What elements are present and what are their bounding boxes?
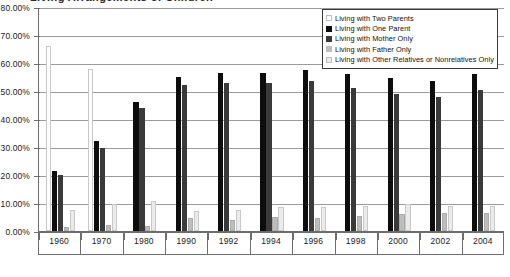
- bar: [309, 81, 314, 231]
- y-axis-tick-label: 40.00%: [1, 115, 30, 125]
- bar: [436, 97, 441, 231]
- legend-item[interactable]: Living with Father Only: [326, 44, 493, 54]
- bar: [224, 83, 229, 231]
- bar: [133, 102, 138, 231]
- bar: [188, 218, 193, 231]
- bar: [70, 210, 75, 231]
- x-axis-tick-label: 1970: [92, 236, 112, 246]
- bar: [218, 73, 223, 231]
- bar: [100, 148, 105, 231]
- x-axis-tick-label: 2002: [431, 236, 451, 246]
- legend-swatch-icon: [326, 46, 332, 52]
- bar-group: [166, 8, 208, 231]
- bar: [315, 218, 320, 231]
- bar: [52, 171, 57, 231]
- bar: [448, 206, 453, 231]
- x-axis-tick-label: 1990: [176, 236, 196, 246]
- x-axis-separator: [165, 232, 166, 254]
- legend-item[interactable]: Living with One Parent: [326, 23, 493, 33]
- bar: [151, 201, 156, 231]
- bar-chart: 0.00%10.00%20.00%30.00%40.00%50.00%60.00…: [0, 0, 510, 277]
- bar-group: [81, 8, 123, 231]
- bar: [260, 73, 265, 231]
- bar: [278, 207, 283, 231]
- y-axis-tick-label: 20.00%: [1, 171, 30, 181]
- x-axis-left-cap: [38, 232, 39, 254]
- bar: [357, 216, 362, 231]
- bar: [88, 69, 93, 231]
- bar: [442, 213, 447, 231]
- x-axis-separator: [80, 232, 81, 254]
- bar: [394, 94, 399, 231]
- bar: [484, 213, 489, 231]
- bar: [472, 74, 477, 231]
- y-axis-tick-label: 60.00%: [1, 59, 30, 69]
- y-axis-tick-label: 50.00%: [1, 87, 30, 97]
- legend-swatch-icon: [326, 36, 332, 42]
- x-axis-separator: [207, 232, 208, 254]
- bar: [176, 77, 181, 231]
- bar: [321, 207, 326, 231]
- legend-item[interactable]: Living with Other Relatives or Nonrelati…: [326, 55, 493, 65]
- x-axis-separator: [419, 232, 420, 254]
- bar: [112, 204, 117, 231]
- y-axis-tick-label: 10.00%: [1, 199, 30, 209]
- x-axis-labels: 1960197019801990199219941996199820002002…: [38, 232, 504, 254]
- x-axis-tick-label: 1994: [261, 236, 281, 246]
- x-axis-tick-label: 1960: [49, 236, 69, 246]
- x-axis-separator: [292, 232, 293, 254]
- y-axis-tick-label: 30.00%: [1, 143, 30, 153]
- bar-group: [124, 8, 166, 231]
- x-axis-separator: [250, 232, 251, 254]
- y-axis-tick-label: 80.00%: [1, 3, 30, 13]
- bar: [58, 175, 63, 231]
- legend-swatch-icon: [326, 15, 332, 21]
- legend-item-label: Living with Father Only: [335, 45, 411, 54]
- x-axis-tick-label: 2000: [388, 236, 408, 246]
- bar: [64, 227, 69, 231]
- x-axis-rule: [38, 254, 504, 255]
- bar: [363, 206, 368, 231]
- bar: [478, 90, 483, 231]
- x-axis-separator: [462, 232, 463, 254]
- x-axis-tick-label: 1992: [219, 236, 239, 246]
- bar: [230, 220, 235, 231]
- x-axis-tick-label: 1996: [304, 236, 324, 246]
- bar: [194, 211, 199, 231]
- bar: [272, 217, 277, 231]
- bar: [405, 204, 410, 231]
- bar: [345, 74, 350, 231]
- bar-group: [208, 8, 250, 231]
- legend-swatch-icon: [326, 57, 332, 63]
- bar: [94, 141, 99, 231]
- bar: [106, 225, 111, 231]
- bar: [236, 210, 241, 231]
- bar: [46, 46, 51, 231]
- bar: [430, 81, 435, 231]
- chart-legend: Living with Two ParentsLiving with One P…: [322, 9, 498, 69]
- bar: [182, 85, 187, 231]
- bar: [145, 226, 150, 231]
- legend-item[interactable]: Living with Mother Only: [326, 34, 493, 44]
- bar: [303, 70, 308, 231]
- y-axis-tick-label: 0.00%: [5, 227, 30, 237]
- legend-swatch-icon: [326, 26, 332, 32]
- bar: [490, 206, 495, 231]
- legend-item-label: Living with Other Relatives or Nonrelati…: [335, 55, 494, 64]
- bar: [266, 83, 271, 231]
- bar: [399, 214, 404, 231]
- legend-item-label: Living with Mother Only: [335, 34, 413, 43]
- legend-item-label: Living with Two Parents: [335, 14, 414, 23]
- x-axis-separator: [335, 232, 336, 254]
- bar: [388, 78, 393, 231]
- x-axis-separator: [123, 232, 124, 254]
- legend-item-label: Living with One Parent: [335, 24, 410, 33]
- legend-item[interactable]: Living with Two Parents: [326, 13, 493, 23]
- x-axis-separator: [377, 232, 378, 254]
- x-axis-tick-label: 1980: [134, 236, 154, 246]
- bar: [139, 108, 144, 231]
- x-axis-tick-label: 2004: [473, 236, 493, 246]
- bar: [351, 88, 356, 231]
- y-axis-tick-label: 70.00%: [1, 31, 30, 41]
- x-axis-right-cap: [503, 232, 504, 254]
